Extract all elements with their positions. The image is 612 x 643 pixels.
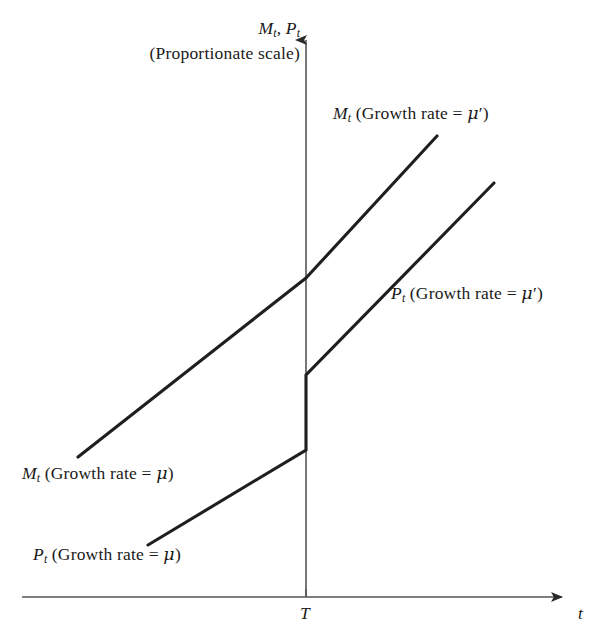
series-label-mt-old-close: ) — [168, 463, 174, 483]
series-label-mt-old-var: M — [22, 463, 37, 483]
series-label-mt-old: Mt (Growth rate = μ) — [22, 463, 174, 486]
y-axis-caption-line1: Mt, Pt — [259, 18, 300, 38]
series-label-pt-new-var: P — [391, 283, 402, 303]
series-line-pt — [148, 183, 494, 545]
y-axis-caption-line2: (Proportionate scale) — [118, 43, 300, 65]
series-label-pt-new-close: ) — [537, 283, 543, 303]
series-label-mt-new-close: ) — [483, 103, 489, 123]
series-label-pt-new-greek: μ — [521, 283, 533, 303]
series-label-pt-old-text: (Growth rate = — [47, 544, 163, 564]
x-axis-label: t — [578, 603, 583, 625]
series-label-mt-new-var: M — [333, 103, 348, 123]
series-label-pt-old: Pt (Growth rate = μ) — [33, 544, 181, 567]
series-label-mt-new-text: (Growth rate = — [351, 103, 467, 123]
y-axis-var-m: M — [259, 18, 274, 38]
figure-canvas: Mt, Pt (Proportionate scale) Mt (Growth … — [0, 0, 612, 643]
x-axis-tick-label-T: T — [300, 603, 310, 625]
y-axis-caption-separator: , — [277, 18, 286, 38]
y-axis-var-p-subscript: t — [297, 26, 300, 40]
series-label-pt-new-text: (Growth rate = — [405, 283, 521, 303]
series-label-mt-new-greek: μ — [467, 103, 479, 123]
series-label-mt-old-text: (Growth rate = — [40, 463, 156, 483]
series-label-pt-old-greek: μ — [163, 544, 175, 564]
series-label-mt-old-greek: μ — [156, 463, 168, 483]
series-label-mt-new: Mt (Growth rate = μ′) — [333, 103, 489, 126]
series-label-pt-new: Pt (Growth rate = μ′) — [391, 283, 543, 306]
series-label-pt-old-var: P — [33, 544, 44, 564]
y-axis-caption: Mt, Pt (Proportionate scale) — [118, 18, 300, 65]
series-label-pt-old-close: ) — [175, 544, 181, 564]
y-axis-var-p: P — [286, 18, 297, 38]
